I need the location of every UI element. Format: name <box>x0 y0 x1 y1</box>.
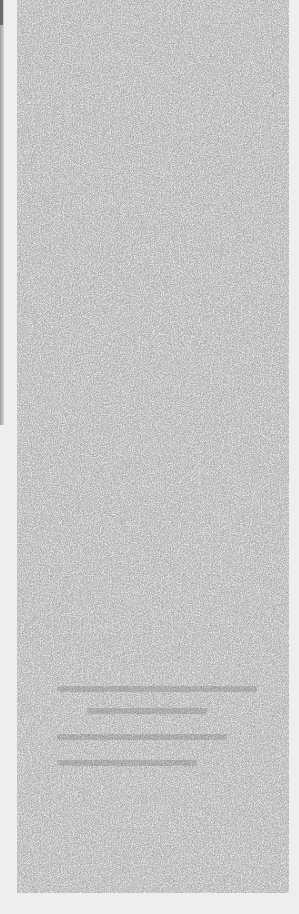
window-edge-strip <box>0 0 4 425</box>
obscured-text-line <box>57 734 227 740</box>
window-edge-accent <box>0 0 3 25</box>
obscured-text-line <box>87 708 207 714</box>
screen <box>0 0 299 914</box>
obscured-text-line <box>57 686 257 692</box>
obscured-text-line <box>57 760 197 766</box>
noise-obscured-panel <box>17 0 289 893</box>
